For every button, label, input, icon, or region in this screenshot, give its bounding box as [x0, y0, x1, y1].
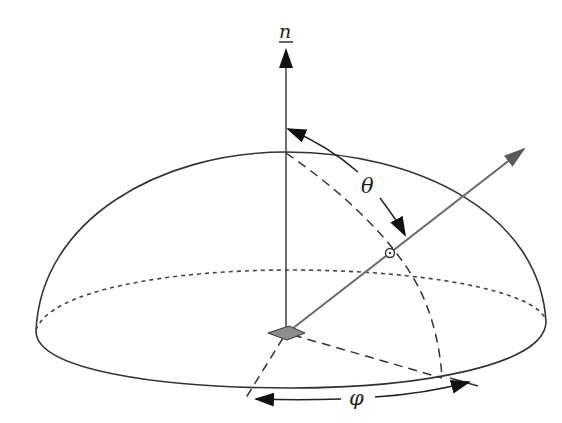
theta-arrow-upper — [288, 129, 358, 172]
theta-label: θ — [361, 174, 374, 198]
theta-arrow-lower — [380, 198, 405, 235]
base-ellipse-back — [36, 270, 546, 330]
normal-label: n — [279, 20, 291, 42]
phi-label: φ — [349, 386, 364, 410]
hemisphere-diagram: n θ φ — [0, 0, 562, 423]
azimuth-reference-dashed — [244, 338, 283, 401]
phi-arrow-left — [256, 399, 341, 400]
base-tick — [450, 378, 478, 386]
direction-ray — [288, 149, 524, 332]
surface-point-dot — [389, 252, 391, 254]
projection-dashed — [293, 335, 442, 378]
hemisphere-dome — [36, 152, 546, 332]
area-element — [268, 326, 305, 340]
